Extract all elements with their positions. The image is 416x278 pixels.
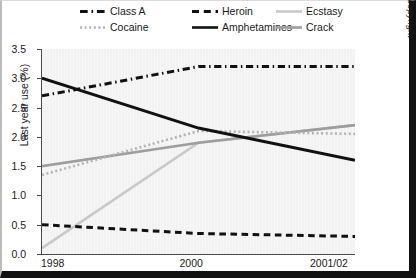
legend-swatch-icon	[80, 6, 106, 17]
y-axis-label: Last year use (%)	[18, 45, 30, 165]
legend-item-cocaine[interactable]: Cocaine	[80, 20, 149, 34]
chart-canvas: Class AHeroinEcstasyCocaineAmphetaminesC…	[2, 1, 409, 270]
series-line-class-a	[42, 67, 355, 96]
legend-item-ecstasy[interactable]: Ecstasy	[276, 4, 343, 18]
legend-swatch-icon	[192, 22, 218, 33]
legend-item-crack[interactable]: Crack	[276, 20, 333, 34]
y-tick-label: 0.5	[0, 220, 26, 230]
y-tick-label: 0.0	[0, 249, 26, 259]
x-tick-label: 1998	[41, 257, 64, 269]
legend-item-class-a[interactable]: Class A	[80, 4, 146, 18]
source-note: Source: British Crime Survey, Crown copy…	[406, 0, 416, 53]
legend-item-label: Crack	[306, 21, 333, 33]
plot-area	[41, 49, 355, 255]
legend-swatch-icon	[192, 6, 218, 17]
legend-swatch-icon	[80, 22, 106, 33]
series-line-heroin	[42, 225, 355, 237]
series-line-amphetamines	[42, 78, 355, 160]
legend-swatch-icon	[276, 6, 302, 17]
legend-swatch-icon	[276, 22, 302, 33]
y-tick-label: 1.0	[0, 190, 26, 200]
legend-item-heroin[interactable]: Heroin	[192, 4, 253, 18]
series-line-cocaine	[42, 131, 355, 175]
series-lines	[42, 49, 355, 254]
x-tick-label: 2001/02	[310, 257, 348, 269]
chart-figure: Class AHeroinEcstasyCocaineAmphetaminesC…	[0, 0, 416, 278]
legend-item-label: Cocaine	[110, 21, 149, 33]
legend-item-label: Class A	[110, 5, 146, 17]
x-tick-label: 2000	[180, 257, 203, 269]
chart-legend: Class AHeroinEcstasyCocaineAmphetaminesC…	[80, 4, 370, 38]
legend-item-label: Ecstasy	[306, 5, 343, 17]
legend-item-label: Heroin	[222, 5, 253, 17]
